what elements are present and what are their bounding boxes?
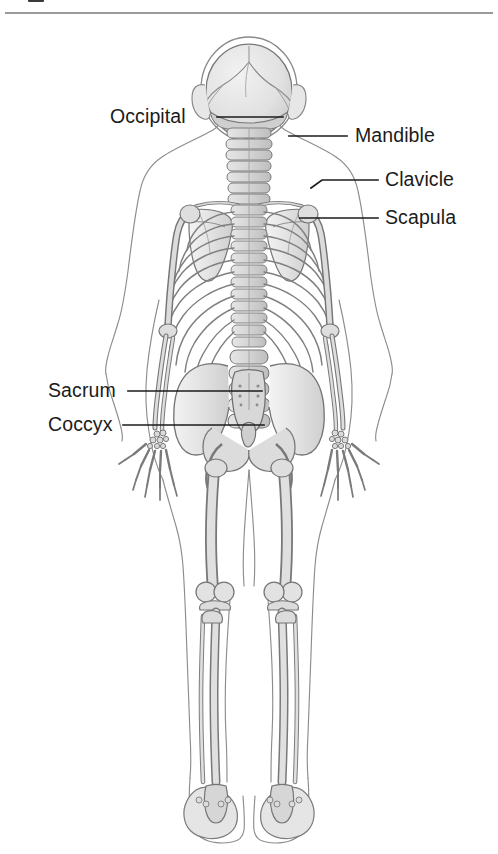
label-coccyx: Coccyx (48, 415, 113, 435)
hand-left (119, 430, 177, 500)
thoracic-spine (231, 205, 267, 347)
leader-clavicle (311, 180, 378, 188)
skull (192, 37, 306, 141)
pelvis (174, 364, 325, 498)
label-scapula: Scapula (385, 208, 456, 228)
cervical-spine (226, 128, 272, 204)
figure-root: Occipital Mandible Clavicle Scapula Sacr… (0, 0, 498, 854)
femur-right (264, 459, 302, 602)
label-occipital: Occipital (110, 107, 186, 127)
label-mandible: Mandible (355, 126, 435, 146)
hand-right (321, 430, 379, 500)
foot-left (184, 785, 238, 839)
foot-right (261, 785, 315, 839)
label-sacrum: Sacrum (48, 381, 116, 401)
clavicle-right (260, 203, 302, 206)
femoral-condyle-lateral-left (214, 582, 234, 602)
femoral-condyle-medial-right (282, 582, 302, 602)
coccyx-bone (242, 423, 256, 448)
radius-ulna-left (155, 336, 173, 430)
radius-ulna-right (325, 336, 343, 430)
femoral-condyle-lateral-right (264, 582, 284, 602)
tibia-fibula-left (201, 611, 223, 782)
label-clavicle: Clavicle (385, 170, 454, 190)
femur-left (196, 459, 234, 602)
clavicle-left (196, 203, 238, 206)
tibia-fibula-right (276, 611, 298, 782)
femoral-condyle-medial-left (196, 582, 216, 602)
